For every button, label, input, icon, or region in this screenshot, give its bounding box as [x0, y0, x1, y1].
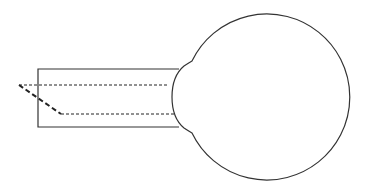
tube-outline — [38, 69, 179, 127]
bulb-outline — [172, 14, 350, 180]
diagram-canvas — [0, 0, 369, 190]
diagonal-dashed-line — [19, 85, 61, 114]
tube-bulb-diagram — [0, 0, 369, 190]
